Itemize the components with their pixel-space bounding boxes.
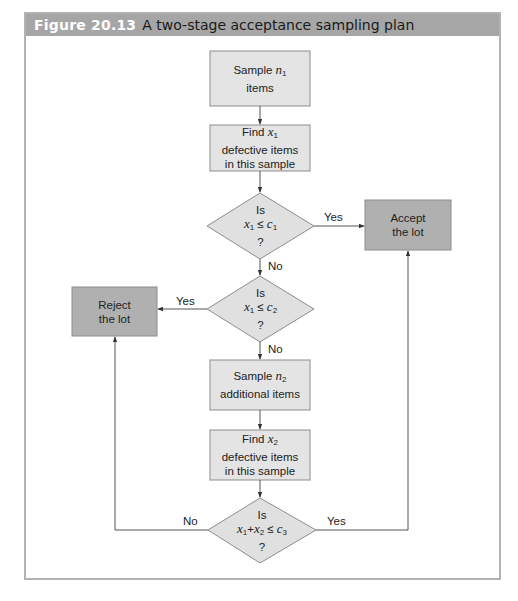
decision-2-label: Is x1 ≤ c2 ?	[207, 276, 314, 342]
decision-1-label: Is x1 ≤ c1 ?	[207, 193, 314, 259]
edge-label-d1-no: No	[268, 260, 283, 272]
edge-label-d2-no: No	[268, 343, 283, 355]
arrow-d3-yes-to-accept	[316, 251, 408, 530]
edge-label-d3-no: No	[183, 515, 198, 527]
edge-label-d3-yes: Yes	[327, 515, 346, 527]
edge-label-d1-yes: Yes	[324, 211, 343, 223]
sample-n2-label: Sample n2 additional items	[210, 360, 310, 410]
find-x1-label: Find x1 defective items in this sample	[210, 125, 310, 171]
accept-label: Accept the lot	[365, 200, 451, 250]
arrow-d3-no-to-reject	[115, 337, 208, 530]
decision-3-label: Is x1+x2 ≤ c3 ?	[208, 498, 316, 563]
find-x2-label: Find x2 defective items in this sample	[210, 430, 310, 480]
sample-n1-label: Sample n1 items	[210, 51, 310, 106]
reject-label: Reject the lot	[72, 287, 157, 336]
edge-label-d2-yes: Yes	[176, 295, 195, 307]
